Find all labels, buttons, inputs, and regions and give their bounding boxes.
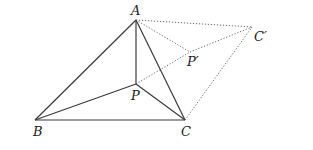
- segment-AB: [35, 20, 136, 120]
- segment-AC: [136, 20, 185, 120]
- solid-lines: [35, 20, 185, 120]
- label-P-prime: P′: [186, 54, 199, 69]
- segment-BP: [35, 84, 136, 120]
- segment-PP-prime: [136, 52, 190, 84]
- geometry-diagram: A B C P P′ C′: [0, 0, 313, 150]
- segment-AC-prime: [136, 20, 252, 27]
- label-C: C: [181, 124, 191, 139]
- dotted-lines: [136, 20, 252, 120]
- point-labels: A B C P P′ C′: [32, 3, 267, 139]
- label-B: B: [32, 124, 43, 139]
- label-C-prime: C′: [254, 29, 267, 44]
- label-A: A: [130, 3, 140, 18]
- segment-CP: [136, 84, 185, 120]
- label-P: P: [130, 88, 140, 103]
